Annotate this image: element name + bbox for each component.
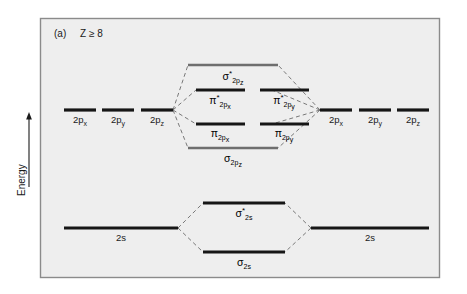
mo-energy-diagram: Energy (a) Z ≥ 8 2px xyxy=(0,0,467,294)
panel-label: (a) xyxy=(54,28,66,39)
figure-page: Energy (a) Z ≥ 8 2px xyxy=(0,0,467,294)
energy-axis-arrowhead xyxy=(26,112,32,120)
ao-label-right-2s: 2s xyxy=(365,232,375,243)
energy-axis-label: Energy xyxy=(16,164,27,196)
ao-label-left-2s: 2s xyxy=(116,232,126,243)
energy-axis: Energy xyxy=(16,112,32,196)
condition-label: Z ≥ 8 xyxy=(80,28,103,39)
